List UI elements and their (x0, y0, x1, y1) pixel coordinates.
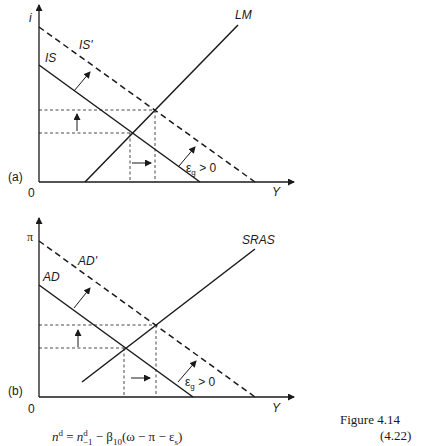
equation-number: (4.22) (380, 428, 411, 444)
ad-label: AD (42, 270, 60, 284)
guide-lines-a (39, 110, 155, 182)
panel-b: π AD AD' SRAS εg > 0 (b) 0 Y (8, 218, 294, 416)
figure-caption: Figure 4.14 (340, 412, 400, 428)
ad-prime-curve (39, 241, 255, 397)
origin-label-b: 0 (28, 402, 35, 416)
equation: nd = nd−1 − β10(ω − π − εs) (52, 428, 182, 446)
panel-label-b: (b) (8, 384, 23, 398)
shift-arrow-icon (74, 288, 90, 308)
is-prime-curve (39, 27, 255, 182)
ad-curve (39, 285, 193, 397)
is-curve (39, 65, 200, 182)
shock-label-a: εg > 0 (186, 161, 216, 177)
origin-label-a: 0 (28, 186, 35, 200)
figure-canvas: i IS IS' LM εg > 0 (a) 0 Y π AD AD' (0, 0, 432, 446)
x-axis-label-b: Y (272, 401, 281, 415)
y-axis-label-a: i (29, 11, 32, 25)
is-prime-label: IS' (79, 38, 93, 52)
lm-label: LM (235, 8, 252, 22)
ad-prime-label: AD' (77, 254, 98, 268)
guide-lines-b (39, 325, 156, 397)
shock-label-b: εg > 0 (185, 375, 215, 391)
panel-label-a: (a) (8, 170, 23, 184)
shift-arrow-icon (74, 72, 90, 91)
sras-label: SRAS (242, 233, 275, 247)
lm-curve (85, 25, 238, 182)
panel-a: i IS IS' LM εg > 0 (a) 0 Y (8, 5, 294, 200)
x-axis-label-a: Y (272, 185, 281, 199)
is-label: IS (45, 51, 56, 65)
y-axis-label-b: π (27, 230, 33, 244)
sras-curve (82, 249, 255, 382)
